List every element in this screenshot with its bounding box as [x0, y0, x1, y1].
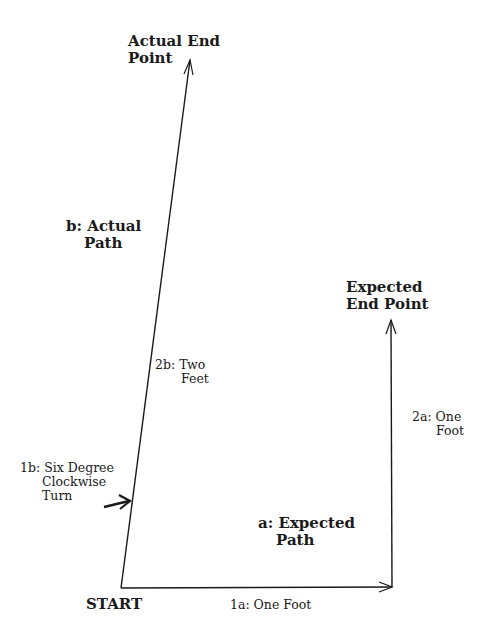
segment-2a-label-line1: 2a: One: [412, 410, 464, 424]
actual-end-label-line2: Point: [128, 50, 220, 67]
segment-2a-line: [391, 320, 392, 587]
actual-end-point-label: Actual End Point: [128, 33, 220, 66]
segment-2a-label-line2: Foot: [412, 424, 464, 438]
actual-path-label: b: Actual Path: [66, 218, 141, 251]
actual-path-label-line2: Path: [66, 235, 141, 252]
expected-end-label-line2: End Point: [346, 296, 428, 313]
start-label: START: [86, 596, 142, 613]
expected-end-label-line1: Expected: [346, 279, 428, 296]
segment-1b-label-line3: Turn: [20, 489, 114, 503]
path-diagram: [0, 0, 484, 638]
segment-actual-line: [121, 60, 190, 588]
actual-path-label-line1: b: Actual: [66, 218, 141, 235]
segment-2a-label: 2a: One Foot: [412, 410, 464, 438]
segment-1a-line: [121, 587, 392, 588]
segment-1b-label-line1: 1b: Six Degree: [20, 461, 114, 475]
segment-1a-label: 1a: One Foot: [230, 598, 311, 612]
actual-end-label-line1: Actual End: [128, 33, 220, 50]
segment-1b-label: 1b: Six Degree Clockwise Turn: [20, 461, 114, 502]
expected-path-label-line2: Path: [258, 532, 355, 549]
segment-2b-label-line1: 2b: Two: [155, 358, 209, 372]
expected-end-point-label: Expected End Point: [346, 279, 428, 312]
expected-path-label: a: Expected Path: [258, 515, 355, 548]
segment-2b-label: 2b: Two Feet: [155, 358, 209, 386]
segment-1b-label-line2: Clockwise: [20, 475, 114, 489]
expected-path-label-line1: a: Expected: [258, 515, 355, 532]
segment-2b-label-line2: Feet: [155, 372, 209, 386]
